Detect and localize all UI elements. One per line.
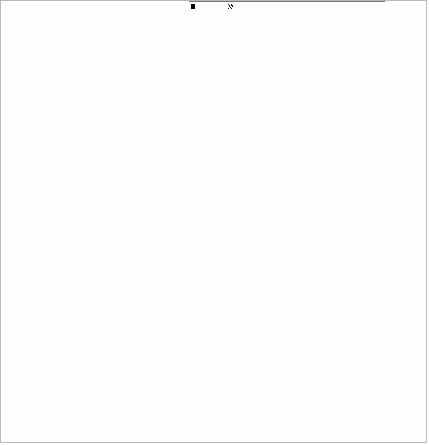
chart-figure: [0, 0, 427, 443]
plot-area: [1, 1, 426, 442]
legend-swatch-fund: [191, 4, 196, 9]
legend-swatch-dontfund: [228, 4, 233, 9]
chart-legend: [1, 1, 426, 10]
